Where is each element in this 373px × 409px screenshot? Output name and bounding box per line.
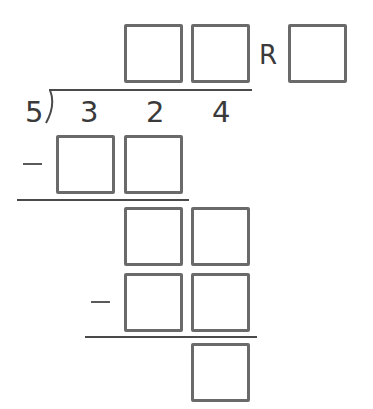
minus-sign-1 bbox=[23, 163, 42, 165]
divisor: 5 bbox=[25, 97, 43, 127]
dividend-digit-tens: 2 bbox=[146, 97, 164, 127]
difference-1-tens-box[interactable] bbox=[124, 207, 183, 266]
subtraction-line-1 bbox=[17, 199, 189, 201]
subtrahend-2-tens-box[interactable] bbox=[124, 273, 183, 332]
minus-sign-2 bbox=[91, 301, 110, 303]
subtrahend-1-tens-box[interactable] bbox=[56, 135, 115, 194]
division-bar bbox=[49, 89, 252, 91]
final-remainder-box[interactable] bbox=[191, 343, 250, 402]
dividend-digit-hundreds: 3 bbox=[80, 97, 98, 127]
dividend-digit-ones: 4 bbox=[212, 97, 230, 127]
subtrahend-2-ones-box[interactable] bbox=[191, 273, 250, 332]
division-bracket bbox=[42, 89, 56, 125]
quotient-ones-box[interactable] bbox=[191, 24, 250, 83]
quotient-remainder-box[interactable] bbox=[288, 24, 347, 83]
subtrahend-1-ones-box[interactable] bbox=[124, 135, 183, 194]
subtraction-line-2 bbox=[85, 336, 257, 338]
quotient-tens-box[interactable] bbox=[124, 24, 183, 83]
remainder-label: R bbox=[259, 40, 277, 70]
difference-1-ones-box[interactable] bbox=[191, 207, 250, 266]
